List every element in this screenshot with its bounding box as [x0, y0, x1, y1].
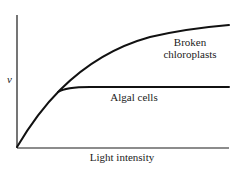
algal-cells-label: Algal cells — [110, 91, 157, 103]
y-axis-label: v — [7, 73, 12, 85]
broken-chloroplasts-label-line2: chloroplasts — [163, 48, 216, 60]
chart: v Light intensity Broken chloroplasts Al… — [0, 0, 239, 171]
broken-chloroplasts-label-line1: Broken — [174, 36, 207, 48]
x-axis-label: Light intensity — [90, 151, 155, 163]
